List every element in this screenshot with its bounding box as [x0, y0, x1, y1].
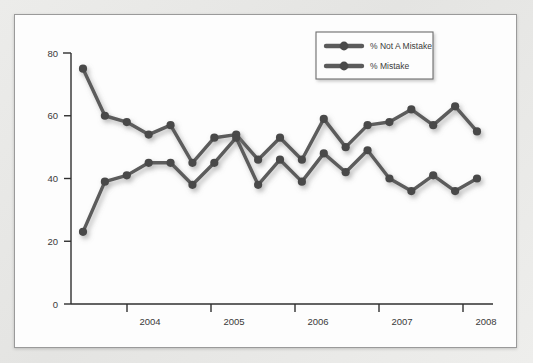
y-tick-label-60: 60 — [47, 110, 58, 121]
legend-label-mistake: % Mistake — [370, 61, 409, 71]
data-point-marker[interactable] — [342, 168, 350, 176]
data-point-marker[interactable] — [429, 171, 437, 179]
data-point-marker[interactable] — [166, 159, 174, 167]
data-point-marker[interactable] — [188, 181, 196, 189]
x-tick-label-2007: 2007 — [391, 316, 412, 327]
chart-card: 80 60 40 20 0 2004 2005 2006 2007 200 — [14, 14, 517, 348]
legend-label-not-a-mistake: % Not A Mistake — [370, 41, 432, 51]
y-tick-label-40: 40 — [47, 173, 58, 184]
data-point-marker[interactable] — [101, 178, 109, 186]
y-axis: 80 60 40 20 0 — [47, 48, 71, 310]
y-tick-label-20: 20 — [47, 236, 58, 247]
data-point-marker[interactable] — [276, 156, 284, 164]
data-point-marker[interactable] — [385, 118, 393, 126]
data-point-marker[interactable] — [276, 134, 284, 142]
data-point-marker[interactable] — [342, 143, 350, 151]
data-point-marker[interactable] — [473, 127, 481, 135]
data-point-marker[interactable] — [407, 105, 415, 113]
x-tick-label-2005: 2005 — [223, 316, 244, 327]
data-point-marker[interactable] — [232, 134, 240, 142]
y-tick-label-80: 80 — [47, 48, 58, 59]
data-point-marker[interactable] — [123, 171, 131, 179]
data-point-marker[interactable] — [145, 130, 153, 138]
chart-legend — [316, 32, 433, 79]
data-point-marker[interactable] — [320, 115, 328, 123]
data-point-marker[interactable] — [254, 181, 262, 189]
y-axis-ticks — [63, 53, 71, 304]
line-chart-plot: 80 60 40 20 0 2004 2005 2006 2007 200 — [15, 15, 518, 349]
series-2 — [79, 134, 481, 236]
data-point-marker[interactable] — [407, 187, 415, 195]
x-axis: 2004 2005 2006 2007 2008 — [71, 304, 497, 327]
data-point-marker[interactable] — [123, 118, 131, 126]
data-point-marker[interactable] — [210, 134, 218, 142]
data-series-layer — [79, 65, 481, 236]
data-point-marker[interactable] — [363, 146, 371, 154]
data-point-marker[interactable] — [385, 174, 393, 182]
x-axis-tick-labels: 2004 2005 2006 2007 2008 — [139, 316, 496, 327]
data-point-marker[interactable] — [79, 65, 87, 73]
data-point-marker[interactable] — [101, 112, 109, 120]
legend-box — [316, 32, 433, 79]
data-point-marker[interactable] — [166, 121, 174, 129]
legend-entry-not-a-mistake[interactable]: % Not A Mistake — [326, 41, 432, 51]
data-point-marker[interactable] — [145, 159, 153, 167]
data-point-marker[interactable] — [363, 121, 371, 129]
data-point-marker[interactable] — [451, 102, 459, 110]
y-axis-tick-labels: 80 60 40 20 0 — [47, 48, 58, 310]
legend-swatch-marker-not-a-mistake — [340, 42, 349, 51]
series-line — [83, 69, 477, 163]
data-point-marker[interactable] — [320, 149, 328, 157]
x-axis-ticks — [127, 304, 463, 312]
data-point-marker[interactable] — [473, 174, 481, 182]
data-point-marker[interactable] — [298, 156, 306, 164]
y-tick-label-0: 0 — [53, 299, 58, 310]
data-point-marker[interactable] — [298, 178, 306, 186]
data-point-marker[interactable] — [188, 159, 196, 167]
data-point-marker[interactable] — [210, 159, 218, 167]
x-tick-label-2008: 2008 — [475, 316, 496, 327]
data-point-marker[interactable] — [79, 228, 87, 236]
legend-swatch-marker-mistake — [340, 62, 349, 71]
x-tick-label-2006: 2006 — [307, 316, 328, 327]
data-point-marker[interactable] — [254, 156, 262, 164]
series-1 — [79, 65, 481, 167]
x-tick-label-2004: 2004 — [139, 316, 160, 327]
series-line — [83, 138, 477, 232]
data-point-marker[interactable] — [429, 121, 437, 129]
data-point-marker[interactable] — [451, 187, 459, 195]
